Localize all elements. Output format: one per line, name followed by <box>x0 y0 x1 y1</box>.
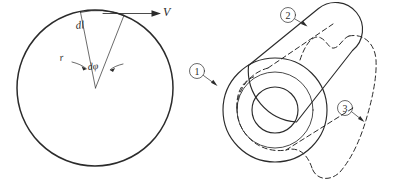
angle-arrowhead-right <box>110 68 115 72</box>
angle-arc-left <box>72 62 86 69</box>
arc-element-dl <box>81 11 125 16</box>
bore-circle <box>252 87 298 133</box>
boss-outline-solid <box>223 58 327 162</box>
callout-1-label: 1 <box>195 66 200 77</box>
callout-2-label: 2 <box>286 10 291 21</box>
angle-arc-right <box>110 64 123 70</box>
label-angle: dφ <box>87 60 99 72</box>
lever-shank-dashed-upper <box>268 24 333 68</box>
callout-1-arrowhead <box>211 80 218 86</box>
figure-sheet: dl r dφ V <box>0 0 397 190</box>
sector-radius-right <box>96 15 125 88</box>
label-radius: r <box>59 52 64 63</box>
callout-3-label: 3 <box>343 103 348 114</box>
callout-3-arrowhead <box>358 116 365 122</box>
velocity-arrowhead <box>152 10 162 17</box>
scalloped-profile-dashed <box>300 36 349 60</box>
label-arc-element: dl <box>75 18 85 31</box>
left-diagram-group: dl r dφ V <box>17 5 173 166</box>
right-diagram-group: 1 2 3 <box>190 2 377 178</box>
technical-drawing-canvas: dl r dφ V <box>0 0 397 190</box>
label-velocity: V <box>163 5 172 19</box>
disc-outline <box>17 10 173 166</box>
hub-ring-solid <box>237 72 313 148</box>
lever-shank-dashed-lower <box>286 108 353 150</box>
displaced-outline-bottom <box>286 149 312 168</box>
